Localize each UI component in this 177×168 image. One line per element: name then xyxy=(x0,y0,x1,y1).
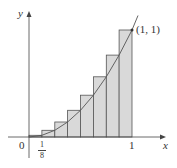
fraction-denominator: 8 xyxy=(40,151,44,160)
x-axis-label: x xyxy=(163,140,168,151)
tick-one-label: 1 xyxy=(129,140,135,151)
y-axis-arrow-icon xyxy=(27,11,32,17)
riemann-sum-diagram: y x 0 1 (1, 1) 1 8 xyxy=(0,0,177,168)
tick-eighth-label: 1 8 xyxy=(37,141,47,160)
origin-label: 0 xyxy=(19,140,25,151)
y-axis-label: y xyxy=(18,8,23,19)
point-label: (1, 1) xyxy=(136,24,160,35)
rectangles xyxy=(29,30,132,137)
point-marker xyxy=(131,29,134,32)
fraction-numerator: 1 xyxy=(40,140,44,149)
